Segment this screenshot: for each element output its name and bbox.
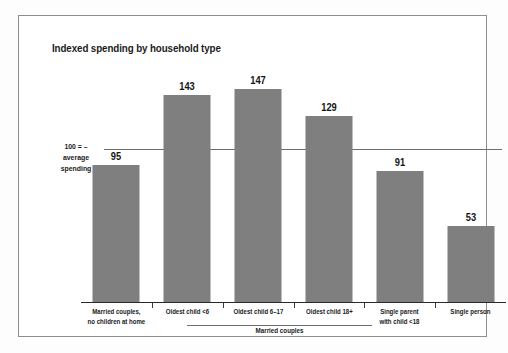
page-title: Indexed spending by household type — [52, 42, 221, 54]
bar — [305, 116, 352, 303]
x-axis-label-line: Single parent — [367, 307, 432, 317]
bar-value-label: 91 — [395, 157, 405, 168]
x-axis-tick — [435, 303, 436, 308]
x-axis-label-line: Single person — [438, 307, 503, 317]
group-bracket-label: Married couples — [194, 327, 364, 334]
x-axis-tick — [152, 303, 153, 308]
figure-frame: Indexed spending by household type 100 =… — [18, 15, 487, 337]
x-axis-label: Single person — [438, 307, 503, 317]
x-axis-label-line: with child <18 — [367, 317, 432, 327]
bar — [93, 165, 140, 303]
bar-group: 147 — [223, 56, 294, 303]
bar-group: 91 — [364, 56, 435, 303]
bar-group: 143 — [152, 56, 223, 303]
bar-value-label: 53 — [465, 212, 475, 223]
x-axis-label: Oldest child 18+ — [296, 307, 361, 317]
bar-series: 951431471299153 — [81, 56, 506, 303]
bar-value-label: 95 — [111, 151, 121, 162]
bar — [235, 89, 282, 303]
x-axis-tick — [223, 303, 224, 308]
x-axis-baseline — [81, 302, 506, 303]
x-axis-label-line: no children at home — [84, 317, 149, 327]
bar — [164, 95, 211, 303]
bar-value-label: 143 — [179, 81, 195, 92]
bar-group: 95 — [81, 56, 152, 303]
bar-value-label: 129 — [321, 102, 337, 113]
x-axis-label-line: Oldest child 6–17 — [225, 307, 290, 317]
x-axis-tick — [364, 303, 365, 308]
bar-group: 53 — [435, 56, 506, 303]
x-axis-label: Oldest child <6 — [155, 307, 220, 317]
scanned-page-background: Indexed spending by household type 100 =… — [0, 0, 508, 353]
group-bracket-line — [187, 325, 372, 326]
bar-group: 129 — [294, 56, 365, 303]
x-axis-label-line: Married couples, — [84, 307, 149, 317]
x-axis-label: Married couples,no children at home — [84, 307, 149, 326]
plot-area: 951431471299153 — [81, 56, 506, 303]
x-axis-label-line: Oldest child 18+ — [296, 307, 361, 317]
bar-value-label: 147 — [250, 75, 266, 86]
bar — [376, 171, 423, 303]
x-axis-label: Single parentwith child <18 — [367, 307, 432, 326]
x-axis-label: Oldest child 6–17 — [225, 307, 290, 317]
bar — [447, 226, 494, 303]
x-axis-tick — [294, 303, 295, 308]
x-axis-label-line: Oldest child <6 — [155, 307, 220, 317]
